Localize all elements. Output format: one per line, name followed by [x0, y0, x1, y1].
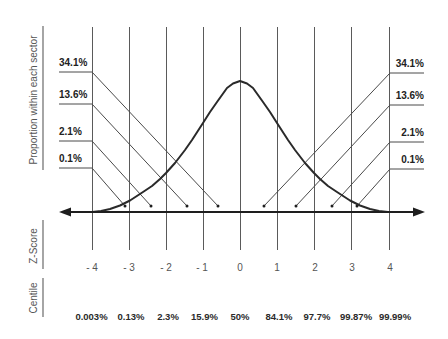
- centile-label: 2.3%: [157, 311, 179, 322]
- arrow-left-icon: [59, 208, 71, 217]
- sector-dot: [331, 205, 334, 208]
- left-proportion-labels: 34.1% 13.6% 2.1% 0.1%: [59, 57, 87, 164]
- proportion-label: 13.6%: [396, 90, 424, 101]
- proportion-label: 13.6%: [59, 89, 87, 100]
- sector-dot: [150, 205, 153, 208]
- proportion-label: 2.1%: [59, 126, 82, 137]
- leader-right-2: [332, 142, 424, 206]
- centile-label: 0.003%: [75, 311, 108, 322]
- centile-label: 15.9%: [191, 311, 218, 322]
- zscore-label: - 3: [123, 262, 135, 273]
- zscore-label: 3: [349, 262, 355, 273]
- zscore-axis-title: Z-Score: [28, 228, 39, 264]
- centile-label: 99.87%: [340, 311, 373, 322]
- proportion-label: 0.1%: [59, 153, 82, 164]
- normal-distribution-chart: Proportion within each sector Z-Score Ce…: [0, 0, 448, 339]
- sector-dot: [217, 205, 220, 208]
- sector-dot: [295, 205, 298, 208]
- normal-distribution-figure: Proportion within each sector Z-Score Ce…: [0, 0, 448, 339]
- centile-label: 97.7%: [304, 311, 331, 322]
- proportion-label: 2.1%: [401, 127, 424, 138]
- proportion-axis-title: Proportion within each sector: [28, 35, 39, 165]
- centile-label: 99.99%: [379, 311, 412, 322]
- row-titles: Proportion within each sector Z-Score Ce…: [28, 26, 43, 317]
- proportion-label: 0.1%: [401, 154, 424, 165]
- leader-right-0: [357, 169, 424, 206]
- sector-dot: [186, 205, 189, 208]
- zscore-label: 0: [237, 262, 243, 273]
- zscore-labels: - 4 - 3 - 2 - 1 0 1 2 3 4: [86, 262, 393, 273]
- sector-dot: [124, 205, 127, 208]
- centile-label: 84.1%: [266, 311, 293, 322]
- zscore-label: 1: [274, 262, 280, 273]
- zscore-label: 2: [312, 262, 318, 273]
- zscore-label: - 2: [160, 262, 172, 273]
- centile-label: 0.13%: [118, 311, 145, 322]
- arrow-right-icon: [413, 208, 425, 217]
- sector-dot: [263, 205, 266, 208]
- proportion-label: 34.1%: [59, 57, 87, 68]
- centile-axis-title: Centile: [28, 282, 39, 314]
- zscore-label: 4: [387, 262, 393, 273]
- zscore-gridlines: [93, 27, 390, 250]
- zscore-label: - 4: [86, 262, 98, 273]
- zscore-label: - 1: [196, 262, 208, 273]
- centile-label: 50%: [230, 311, 250, 322]
- proportion-label: 34.1%: [396, 58, 424, 69]
- centile-labels: 0.003% 0.13% 2.3% 15.9% 50% 84.1% 97.7% …: [75, 311, 411, 322]
- right-proportion-labels: 34.1% 13.6% 2.1% 0.1%: [396, 58, 424, 165]
